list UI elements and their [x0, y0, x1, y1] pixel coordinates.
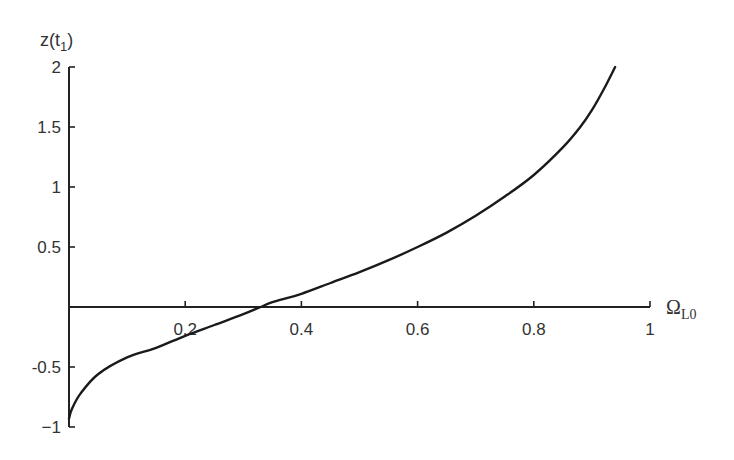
- y-axis: 21.510.5-0.5−1: [32, 58, 75, 437]
- y-axis-title: z(t1): [40, 30, 73, 54]
- y-tick-label: −1: [42, 418, 61, 437]
- x-tick-label: 1: [645, 320, 654, 339]
- data-curve: [69, 67, 615, 419]
- chart: 21.510.5-0.5−1 0.20.40.60.81 z(t1) ΩL0: [0, 0, 734, 460]
- x-tick-label: 0.8: [522, 320, 546, 339]
- y-tick-label: 0.5: [37, 238, 61, 257]
- x-axis-title: ΩL0: [666, 296, 696, 322]
- y-tick-label: -0.5: [32, 358, 61, 377]
- x-tick-label: 0.4: [290, 320, 314, 339]
- x-axis: 0.20.40.60.81: [69, 301, 655, 339]
- y-tick-label: 1: [52, 178, 61, 197]
- y-tick-label: 2: [52, 58, 61, 77]
- x-tick-label: 0.6: [406, 320, 430, 339]
- y-tick-label: 1.5: [37, 118, 61, 137]
